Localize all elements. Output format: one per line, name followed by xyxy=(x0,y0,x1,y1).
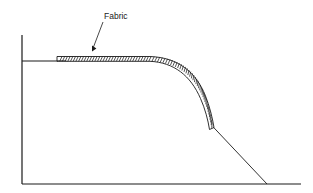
fabric-callout: Fabric xyxy=(92,11,128,52)
fabric-leader-arrow-icon xyxy=(92,46,96,52)
fabric-label: Fabric xyxy=(104,11,128,21)
fabric-layer xyxy=(57,57,214,130)
diagram-root: Fabric xyxy=(0,0,313,193)
fabric-slope-diagram: Fabric xyxy=(0,0,313,193)
fabric-leader-line xyxy=(94,22,104,47)
